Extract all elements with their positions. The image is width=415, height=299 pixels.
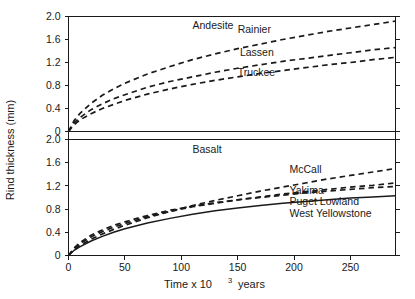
y-tick-label-p0-2: 0.8 <box>46 79 61 91</box>
y-tick-label-p1-3: 1.2 <box>46 180 61 192</box>
rind-thickness-figure: 00.40.81.21.62.000.40.81.21.62.005010015… <box>0 0 415 299</box>
y-tick-label-p1-1: 0.4 <box>46 226 61 238</box>
curve-label-west-yellowstone: West Yellowstone <box>290 207 372 219</box>
y-tick-label-p1-5: 2.0 <box>46 133 61 145</box>
x-axis-title-exponent: 3 <box>228 276 232 285</box>
x-tick-label-2: 100 <box>172 261 190 273</box>
chart-canvas: 00.40.81.21.62.000.40.81.21.62.005010015… <box>0 0 415 299</box>
y-tick-label-p1-0: 0 <box>55 249 61 261</box>
x-axis-title-base: Time x 10 <box>164 278 212 290</box>
y-tick-label-p0-4: 1.6 <box>46 33 61 45</box>
curve-label-puget-lowland: Puget Lowland <box>290 195 360 207</box>
y-axis-title: Rind thickness (mm) <box>4 100 16 200</box>
curve-label-mccall: McCall <box>290 163 322 175</box>
y-tick-label-p0-5: 2.0 <box>46 10 61 22</box>
x-tick-label-1: 50 <box>119 261 131 273</box>
y-tick-label-p1-2: 0.8 <box>46 203 61 215</box>
panel-label-andesite: Andesite <box>193 19 234 31</box>
curve-label-truckee: Truckee <box>238 66 276 78</box>
x-tick-label-0: 0 <box>66 261 72 273</box>
curve-label-lassen: Lassen <box>240 46 274 58</box>
x-tick-label-5: 250 <box>342 261 360 273</box>
panel-label-basalt: Basalt <box>193 143 222 155</box>
x-tick-label-3: 150 <box>229 261 247 273</box>
y-tick-label-p1-4: 1.6 <box>46 156 61 168</box>
y-tick-label-p0-1: 0.4 <box>46 102 61 114</box>
x-tick-label-4: 200 <box>285 261 303 273</box>
x-axis-title-tail: years <box>238 278 265 290</box>
curve-label-rainier: Rainier <box>238 23 272 35</box>
y-tick-label-p0-3: 1.2 <box>46 56 61 68</box>
